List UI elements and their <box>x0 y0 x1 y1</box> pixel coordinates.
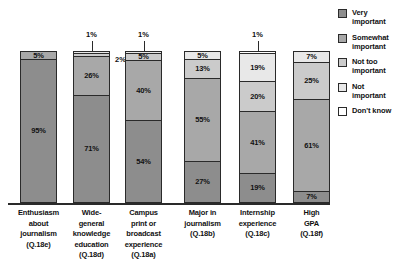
segment-value-label: 19% <box>250 64 264 72</box>
bar-segment[interactable]: 5% <box>126 54 161 62</box>
segment-callout-label: 1% <box>138 31 149 39</box>
segment-value-label: 71% <box>84 145 98 153</box>
callout-leader-line <box>92 41 93 51</box>
bar-segment[interactable]: 54% <box>126 121 161 202</box>
category-label-line: High <box>275 208 349 219</box>
legend-swatch-icon <box>338 34 347 43</box>
segment-value-label: 41% <box>250 139 264 147</box>
segment-value-label: 55% <box>195 116 209 124</box>
legend-label-line: Somewhat <box>352 33 389 42</box>
legend-swatch-icon <box>338 58 347 67</box>
callout-leader-line <box>258 41 259 51</box>
bar-segment[interactable]: 7% <box>294 192 329 203</box>
segment-callout-label: 1% <box>86 31 97 39</box>
bar-segment[interactable]: 55% <box>185 79 220 162</box>
legend-label-line: Don't know <box>352 106 391 115</box>
legend-item[interactable]: Don't know <box>338 106 402 116</box>
legend-label-line: important <box>352 66 386 75</box>
legend-label: Don't know <box>352 106 391 115</box>
category-label-line: (Q.18a) <box>107 250 181 261</box>
legend-label-line: important <box>352 17 386 26</box>
chart-legend: VeryimportantSomewhatimportantNot tooimp… <box>338 8 402 123</box>
segment-value-label: 20% <box>250 93 264 101</box>
bar-segment[interactable]: 41% <box>240 112 275 174</box>
bar-segment[interactable]: 5% <box>21 52 56 60</box>
bar-group[interactable]: 1%5%40%54%1% <box>125 51 162 203</box>
bar-segment[interactable]: 19% <box>240 174 275 203</box>
segment-value-label: 5% <box>33 52 43 60</box>
bar-segment[interactable]: 20% <box>240 82 275 112</box>
segment-value-label: 54% <box>136 158 150 166</box>
callout-leader-line <box>144 41 145 51</box>
stacked-bar[interactable]: 1%5%40%54% <box>125 51 162 203</box>
bar-segment[interactable]: 40% <box>126 61 161 121</box>
stacked-bar[interactable]: 1%2%26%71% <box>73 51 110 203</box>
segment-value-label: 40% <box>136 87 150 95</box>
segment-value-label: 61% <box>304 142 318 150</box>
bar-segment[interactable]: 7% <box>294 52 329 63</box>
segment-value-label: 5% <box>197 52 207 60</box>
legend-label-line: Not too <box>352 57 386 66</box>
segment-value-label: 25% <box>304 77 318 85</box>
legend-label: Not tooimportant <box>352 57 386 75</box>
plot-area: 5%95%1%2%26%71%2%1%1%5%40%54%1%5%13%55%2… <box>0 0 338 270</box>
bar-group[interactable]: 1%2%26%71%2%1% <box>73 51 110 203</box>
bar-segment[interactable]: 19% <box>240 54 275 83</box>
legend-item[interactable]: Not tooimportant <box>338 57 402 75</box>
legend-swatch-icon <box>338 107 347 116</box>
legend-item[interactable]: Notimportant <box>338 82 402 100</box>
bar-group[interactable]: 5%95% <box>20 51 57 203</box>
bar-group[interactable]: 7%25%61%7% <box>293 51 330 203</box>
stacked-bar-chart: 5%95%1%2%26%71%2%1%1%5%40%54%1%5%13%55%2… <box>0 0 402 270</box>
bar-segment[interactable]: 5% <box>185 52 220 60</box>
legend-item[interactable]: Veryimportant <box>338 8 402 26</box>
legend-label-line: important <box>352 91 386 100</box>
legend-label-line: Very <box>352 8 386 17</box>
segment-value-label: 7% <box>306 53 316 61</box>
legend-label-line: important <box>352 42 389 51</box>
segment-callout-label: 1% <box>252 31 263 39</box>
legend-swatch-icon <box>338 9 347 18</box>
bar-group[interactable]: 1%19%20%41%19%1% <box>239 51 276 203</box>
bar-segment[interactable]: 25% <box>294 63 329 101</box>
bar-segment[interactable]: 71% <box>74 96 109 203</box>
segment-value-label: 5% <box>138 53 148 61</box>
stacked-bar[interactable]: 7%25%61%7% <box>293 51 330 203</box>
category-label-line: experience <box>107 240 181 251</box>
bar-segment[interactable]: 26% <box>74 57 109 96</box>
segment-value-label: 95% <box>31 127 45 135</box>
bar-segment[interactable]: 27% <box>185 162 220 203</box>
legend-label: Veryimportant <box>352 8 386 26</box>
stacked-bar[interactable]: 1%19%20%41%19% <box>239 51 276 203</box>
stacked-bar[interactable]: 5%13%55%27% <box>184 51 221 203</box>
segment-value-label: 27% <box>195 178 209 186</box>
bar-segment[interactable]: 61% <box>294 100 329 192</box>
stacked-bar[interactable]: 5%95% <box>20 51 57 203</box>
legend-swatch-icon <box>338 83 347 92</box>
legend-item[interactable]: Somewhatimportant <box>338 33 402 51</box>
bar-segment[interactable]: 95% <box>21 60 56 203</box>
segment-value-label: 7% <box>306 193 316 201</box>
category-label-line: GPA <box>275 219 349 230</box>
legend-label: Notimportant <box>352 82 386 100</box>
bar-segment[interactable]: 13% <box>185 60 220 80</box>
segment-value-label: 13% <box>195 65 209 73</box>
bar-group[interactable]: 5%13%55%27% <box>184 51 221 203</box>
x-axis-line <box>8 203 330 205</box>
legend-label: Somewhatimportant <box>352 33 389 51</box>
segment-value-label: 19% <box>250 184 264 192</box>
legend-label-line: Not <box>352 82 386 91</box>
segment-value-label: 26% <box>84 72 98 80</box>
category-label: HighGPA(Q.18f) <box>275 208 349 240</box>
category-label-line: (Q.18f) <box>275 229 349 240</box>
